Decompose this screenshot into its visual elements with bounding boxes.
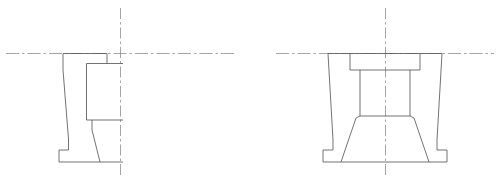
foot-step-left [59, 150, 69, 162]
outer-right-profile-right [437, 54, 442, 151]
outer-left-profile-right [328, 54, 333, 151]
foot-step-left-right [323, 150, 333, 162]
hub-shoulder-left [87, 120, 93, 130]
pedestal-right-slope-right [410, 116, 429, 162]
outer-left-profile [63, 54, 69, 151]
view-half-section [6, 8, 236, 178]
technical-drawing-canvas: .obj { fill: none; stroke: #5a5a5f; stro… [0, 0, 499, 185]
drawing-sheet: .obj { fill: none; stroke: #5a5a5f; stro… [0, 0, 499, 185]
foot-step-right-right [437, 150, 447, 162]
pedestal-left-slope-right [341, 116, 360, 162]
hub-taper-left [92, 130, 100, 162]
view-front-elevation [276, 8, 494, 178]
